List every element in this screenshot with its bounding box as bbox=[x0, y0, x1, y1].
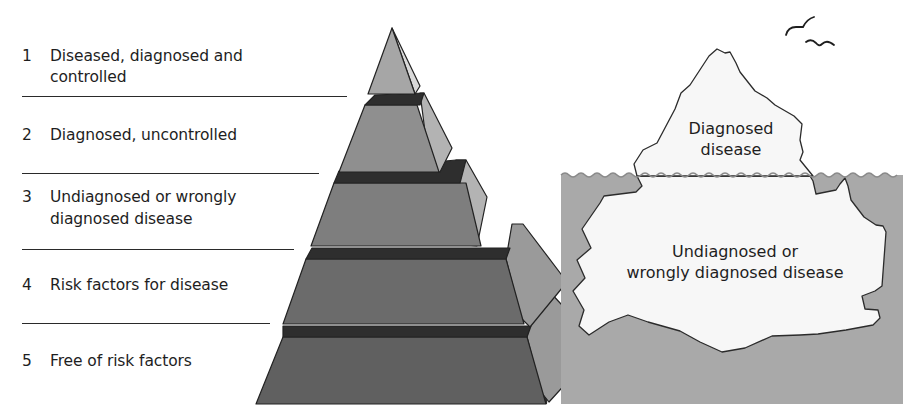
below-label-line1: Undiagnosed or bbox=[610, 241, 860, 262]
tier-separator-4 bbox=[22, 323, 270, 324]
above-label-line2: disease bbox=[676, 139, 786, 160]
tier-text-line2: controlled bbox=[50, 67, 126, 88]
tier-text-line1: Undiagnosed or wrongly bbox=[50, 187, 236, 208]
tier-text-line1: Risk factors for disease bbox=[50, 275, 228, 296]
tier-number: 1 bbox=[22, 46, 32, 67]
pyramid-tier-1 bbox=[368, 28, 420, 94]
pyramid-label-5: 5 Free of risk factors bbox=[22, 351, 322, 373]
tier-number: 2 bbox=[22, 125, 32, 146]
tier-text-line2: diagnosed disease bbox=[50, 209, 192, 230]
iceberg bbox=[561, 17, 903, 404]
pyramid-label-2: 2 Diagnosed, uncontrolled bbox=[22, 125, 322, 147]
tier-separator-1 bbox=[22, 96, 347, 97]
tier-separator-3 bbox=[22, 249, 294, 250]
iceberg-above-label: Diagnosed disease bbox=[676, 118, 786, 160]
tier-text-line1: Diseased, diagnosed and bbox=[50, 46, 243, 67]
pyramid-label-3: 3 Undiagnosed or wrongly diagnosed disea… bbox=[22, 187, 322, 231]
pyramid-label-1: 1 Diseased, diagnosed and controlled bbox=[22, 46, 322, 90]
below-label-line2: wrongly diagnosed disease bbox=[610, 262, 860, 283]
above-label-line1: Diagnosed bbox=[676, 118, 786, 139]
iceberg-below-label: Undiagnosed or wrongly diagnosed disease bbox=[610, 241, 860, 283]
tier-number: 4 bbox=[22, 275, 32, 296]
pyramid-tier-2 bbox=[339, 93, 452, 172]
tier-text-line1: Diagnosed, uncontrolled bbox=[50, 125, 237, 146]
pyramid-label-4: 4 Risk factors for disease bbox=[22, 275, 322, 297]
pyramid-tier-3 bbox=[311, 160, 487, 246]
tier-number: 3 bbox=[22, 187, 32, 208]
tier-number: 5 bbox=[22, 351, 32, 372]
tier-separator-2 bbox=[22, 173, 319, 174]
tier-text-line1: Free of risk factors bbox=[50, 351, 192, 372]
birds-icon bbox=[786, 17, 834, 45]
